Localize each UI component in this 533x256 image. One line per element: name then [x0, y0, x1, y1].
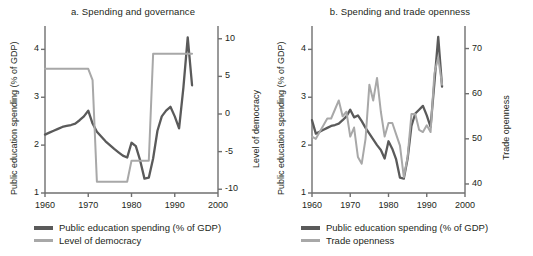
chart-panel-a: a. Spending and governance Public educat…	[0, 0, 266, 256]
panel-b-plot	[267, 0, 533, 256]
y-right-tick-label: 60	[472, 88, 482, 98]
legend-item: Public education spending (% of GDP)	[267, 221, 533, 234]
x-tick-label: 1970	[332, 200, 368, 210]
y-right-tick-label: 50	[472, 133, 482, 143]
x-tick-label: 1960	[294, 200, 330, 210]
right-axis-title: Level of democracy	[251, 90, 261, 168]
legend-label: Public education spending (% of GDP)	[59, 223, 221, 233]
legend-item: Level of democracy	[0, 234, 266, 247]
x-tick-label: 1990	[409, 200, 445, 210]
x-tick-label: 2000	[447, 200, 483, 210]
panel-b-legend: Public education spending (% of GDP)Trad…	[267, 221, 533, 247]
y-right-tick-label: 40	[472, 178, 482, 188]
left-axis-title: Public education spending (% of GDP)	[276, 41, 286, 195]
x-tick-label: 2000	[200, 200, 236, 210]
y-right-tick-label: 70	[472, 43, 482, 53]
y-right-tick-label: -5	[225, 146, 233, 156]
right-axis-title: Trade openness	[501, 95, 511, 160]
y-right-tick-label: 10	[225, 33, 235, 43]
legend-swatch	[34, 226, 53, 230]
y-right-tick-label: 5	[225, 70, 230, 80]
chart-panel-b: b. Spending and trade openness Public ed…	[267, 0, 533, 256]
legend-label: Public education spending (% of GDP)	[326, 223, 488, 233]
y-right-tick-label: 0	[225, 108, 230, 118]
x-tick-label: 1990	[157, 200, 193, 210]
y-right-tick-label: -10	[225, 183, 238, 193]
legend-item: Trade openness	[267, 234, 533, 247]
legend-item: Public education spending (% of GDP)	[0, 221, 266, 234]
legend-swatch	[301, 239, 320, 242]
x-tick-label: 1970	[70, 200, 106, 210]
left-axis-title: Public education spending (% of GDP)	[9, 41, 19, 195]
figure-container: a. Spending and governance Public educat…	[0, 0, 533, 256]
legend-swatch	[34, 239, 53, 242]
x-tick-label: 1980	[371, 200, 407, 210]
panel-a-legend: Public education spending (% of GDP)Leve…	[0, 221, 266, 247]
legend-swatch	[301, 226, 320, 230]
x-tick-label: 1960	[27, 200, 63, 210]
x-tick-label: 1980	[114, 200, 150, 210]
legend-label: Level of democracy	[59, 236, 141, 246]
legend-label: Trade openness	[326, 236, 394, 246]
